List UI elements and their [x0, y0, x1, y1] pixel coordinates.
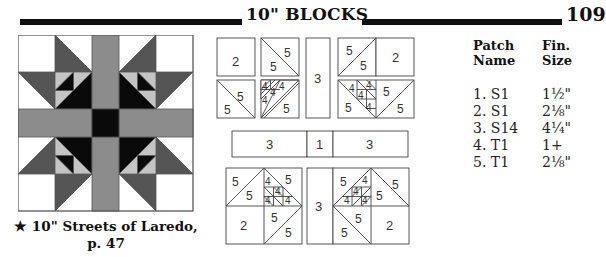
fin-size: 1+ [542, 137, 563, 153]
label-5: 5 [392, 178, 399, 192]
label-5: 5 [224, 103, 231, 117]
column-header-fin-size: Fin. Size [542, 38, 572, 68]
fin-size: 2⅛" [542, 103, 571, 119]
patch-name: 5. T1 [473, 154, 509, 170]
label-5: 5 [283, 102, 290, 116]
table-row: 2⅛" [542, 154, 571, 170]
table-row: 1½" [542, 86, 571, 102]
label-2: 2 [386, 218, 393, 233]
table-row: 3. S14 [473, 120, 518, 136]
label-5: 5 [237, 90, 244, 104]
patch-name: 2. S1 [473, 103, 509, 119]
label-3: 3 [366, 137, 373, 152]
label-4: 4 [353, 186, 359, 197]
label-4: 4 [262, 95, 268, 106]
label-4: 4 [349, 83, 355, 94]
label-4: 4 [265, 176, 271, 187]
patch-name: 1. S1 [473, 86, 509, 102]
label-5: 5 [397, 102, 404, 116]
label-5: 5 [232, 175, 239, 189]
label-5: 5 [284, 46, 291, 60]
label-4: 4 [362, 175, 368, 186]
label-2: 2 [232, 54, 239, 69]
label-5: 5 [270, 60, 277, 74]
label-3: 3 [266, 137, 273, 152]
label-4: 4 [362, 195, 368, 206]
patch-name: 4. T1 [473, 137, 509, 153]
column-header-patch-name: Patch Name [473, 38, 515, 68]
label-5: 5 [360, 59, 367, 73]
label-4: 4 [275, 186, 281, 197]
label-4: 4 [262, 81, 268, 92]
label-4: 4 [270, 87, 276, 98]
label-4: 4 [366, 102, 372, 113]
label-5: 5 [285, 173, 292, 187]
label-5: 5 [340, 175, 347, 189]
label-4: 4 [285, 195, 291, 206]
label-5: 5 [285, 226, 292, 240]
label-3: 3 [314, 71, 321, 86]
label-5: 5 [246, 189, 253, 203]
label-5: 5 [346, 44, 353, 58]
fin-size: 1½" [542, 86, 571, 102]
label-4: 4 [344, 195, 350, 206]
patch-name: 3. S14 [473, 120, 518, 136]
table-row: 1+ [542, 137, 563, 153]
fin-size: 2⅛" [542, 154, 571, 170]
table-row: 1. S1 [473, 86, 509, 102]
table-row: 2. S1 [473, 103, 509, 119]
table-row: 2⅛" [542, 103, 571, 119]
label-5: 5 [376, 189, 383, 203]
table-row: 4¼" [542, 120, 571, 136]
label-5: 5 [383, 85, 390, 99]
label-2: 2 [392, 50, 399, 65]
label-4: 4 [366, 80, 372, 91]
label-3: 3 [315, 199, 322, 214]
fin-size: 4¼" [542, 120, 571, 136]
table-row: 4. T1 [473, 137, 509, 153]
label-5: 5 [341, 226, 348, 240]
label-4: 4 [279, 81, 285, 92]
label-5: 5 [271, 211, 278, 225]
label-5: 5 [355, 212, 362, 226]
label-2: 2 [240, 218, 247, 233]
label-1: 1 [316, 137, 323, 152]
label-5: 5 [345, 101, 352, 115]
label-4: 4 [358, 90, 364, 101]
table-row: 5. T1 [473, 154, 509, 170]
label-4: 4 [265, 195, 271, 206]
